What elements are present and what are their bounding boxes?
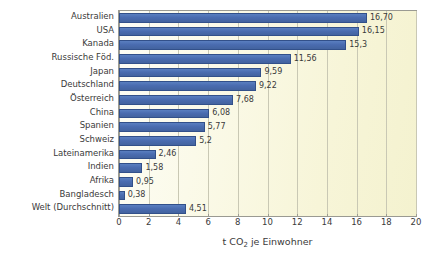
bar-value-label: 1,58 bbox=[145, 164, 163, 172]
bar[interactable] bbox=[119, 68, 261, 78]
category-label: Deutschland bbox=[61, 80, 114, 89]
category-label: Australien bbox=[71, 12, 114, 21]
bar-row[interactable]: 16,15 bbox=[119, 25, 416, 39]
x-tick-label-16: 16 bbox=[351, 218, 362, 227]
bar-value-label: 0,95 bbox=[136, 178, 154, 186]
x-tick-label-4: 4 bbox=[176, 218, 181, 227]
bar-row[interactable]: 5,2 bbox=[119, 134, 416, 148]
x-tick-label-20: 20 bbox=[411, 218, 422, 227]
bar[interactable] bbox=[119, 40, 346, 50]
bar-value-label: 15,3 bbox=[349, 41, 367, 49]
bar-value-label: 9,59 bbox=[264, 68, 282, 76]
co2-per-capita-bar-chart: AustralienUSAKanadaRussische Föd.JapanDe… bbox=[0, 0, 434, 262]
category-label: Spanien bbox=[80, 121, 114, 130]
category-label: Schweiz bbox=[80, 135, 114, 144]
bar-row[interactable]: 9,59 bbox=[119, 66, 416, 80]
bar[interactable] bbox=[119, 122, 205, 132]
bar-value-label: 6,08 bbox=[212, 109, 230, 117]
bar-row[interactable]: 6,08 bbox=[119, 107, 416, 121]
category-label: Welt (Durchschnitt) bbox=[32, 203, 114, 212]
x-tick-label-6: 6 bbox=[205, 218, 210, 227]
bar-row[interactable]: 9,22 bbox=[119, 79, 416, 93]
category-label: Japan bbox=[90, 67, 114, 76]
bar[interactable] bbox=[119, 177, 133, 187]
category-label: Österreich bbox=[70, 94, 114, 103]
x-tick-label-18: 18 bbox=[381, 218, 392, 227]
bar-row[interactable]: 0,95 bbox=[119, 175, 416, 189]
bar-value-label: 16,70 bbox=[370, 14, 393, 22]
bar-value-label: 9,22 bbox=[259, 82, 277, 90]
bar-row[interactable]: 11,56 bbox=[119, 52, 416, 66]
x-axis-ticks: 02468101214161820 bbox=[118, 218, 417, 230]
bar-rows: 16,7016,1515,311,569,599,227,686,085,775… bbox=[119, 11, 416, 216]
bar[interactable] bbox=[119, 136, 196, 146]
bar-value-label: 7,68 bbox=[236, 96, 254, 104]
bar[interactable] bbox=[119, 54, 291, 64]
category-label: China bbox=[90, 108, 114, 117]
category-label: Russische Föd. bbox=[52, 53, 114, 62]
bar-value-label: 11,56 bbox=[294, 55, 317, 63]
bar[interactable] bbox=[119, 95, 233, 105]
category-label: USA bbox=[96, 26, 114, 35]
bar[interactable] bbox=[119, 109, 209, 119]
x-tick-label-2: 2 bbox=[146, 218, 151, 227]
bar[interactable] bbox=[119, 81, 256, 91]
bar-value-label: 0,38 bbox=[128, 191, 146, 199]
bar[interactable] bbox=[119, 13, 367, 23]
bar-value-label: 4,51 bbox=[189, 205, 207, 213]
category-label: Indien bbox=[88, 162, 114, 171]
bar-row[interactable]: 7,68 bbox=[119, 93, 416, 107]
bar[interactable] bbox=[119, 150, 156, 160]
x-tick-label-0: 0 bbox=[116, 218, 121, 227]
x-tick-label-10: 10 bbox=[262, 218, 273, 227]
bar-value-label: 16,15 bbox=[362, 27, 385, 35]
bar[interactable] bbox=[119, 163, 142, 173]
bar-row[interactable]: 1,58 bbox=[119, 161, 416, 175]
bar-row[interactable]: 2,46 bbox=[119, 148, 416, 162]
gridline-20 bbox=[416, 11, 417, 216]
bar-value-label: 5,77 bbox=[208, 123, 226, 131]
x-axis-title: t CO2 je Einwohner bbox=[118, 236, 417, 247]
category-label: Afrika bbox=[90, 176, 114, 185]
bar[interactable] bbox=[119, 27, 359, 37]
bar[interactable] bbox=[119, 204, 186, 214]
bar-row[interactable]: 16,70 bbox=[119, 11, 416, 25]
x-tick-label-14: 14 bbox=[321, 218, 332, 227]
bar[interactable] bbox=[119, 191, 125, 201]
bar-row[interactable]: 0,38 bbox=[119, 189, 416, 203]
bar-row[interactable]: 5,77 bbox=[119, 120, 416, 134]
bar-value-label: 2,46 bbox=[159, 150, 177, 158]
bar-value-label: 5,2 bbox=[199, 137, 212, 145]
category-label: Kanada bbox=[82, 39, 114, 48]
bar-row[interactable]: 15,3 bbox=[119, 38, 416, 52]
plot-area: 16,7016,1515,311,569,599,227,686,085,775… bbox=[118, 10, 417, 217]
category-label: Bangladesch bbox=[59, 190, 114, 199]
category-axis-labels: AustralienUSAKanadaRussische Föd.JapanDe… bbox=[0, 10, 114, 217]
x-tick-label-12: 12 bbox=[292, 218, 303, 227]
category-label: Lateinamerika bbox=[53, 149, 114, 158]
x-tick-label-8: 8 bbox=[235, 218, 240, 227]
